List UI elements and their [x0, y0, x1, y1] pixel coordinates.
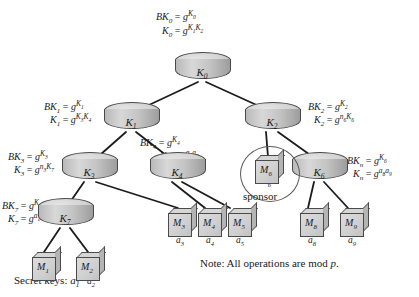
key-node-k6[interactable]: K6: [292, 152, 348, 182]
formula-k2: K2 = gn6K6: [314, 111, 354, 131]
member-node-m3[interactable]: M3: [168, 208, 198, 236]
member-node-m3-label: M3: [168, 217, 190, 233]
key-node-k4-label: K4: [150, 166, 204, 183]
formula-k3: K3 = gn3K7: [14, 161, 54, 181]
member-node-m1-label: M1: [32, 261, 54, 277]
key-node-k2-label: K2: [245, 116, 299, 133]
figure-note: Note: All operations are mod p.: [200, 257, 339, 269]
member-node-m8[interactable]: M8: [300, 208, 330, 236]
key-node-k0[interactable]: K0: [175, 52, 231, 82]
key-tree-diagram: BK0 = gK0 K0 = gK1K2 BK1 = gK1 K1 = gK3K…: [0, 0, 419, 297]
figure-note-text: Note: All operations are mod: [200, 257, 330, 269]
key-node-k1-label: K1: [104, 116, 158, 133]
key-node-k4[interactable]: K4: [150, 152, 206, 182]
figure-note-end: .: [336, 257, 339, 269]
member-node-m5[interactable]: M5: [228, 208, 258, 236]
key-node-k7-label: K7: [38, 212, 92, 229]
member-node-m5-label: M5: [228, 217, 250, 233]
key-node-k0-label: K0: [175, 66, 229, 83]
member-node-m4-label: M4: [198, 217, 220, 233]
formula-kn: Kn = ga8a9: [353, 165, 392, 185]
key-node-k3[interactable]: K3: [62, 152, 118, 182]
formula-k1: K1 = gK3K4: [50, 111, 91, 131]
member-node-m9[interactable]: M9: [340, 208, 370, 236]
tree-edges: [0, 0, 419, 297]
member-node-m9-label: M9: [340, 217, 362, 233]
formula-k0: K0 = gK1K2: [162, 22, 203, 42]
member-node-m8-label: M8: [300, 217, 322, 233]
member-node-m6-label: M6: [255, 164, 277, 180]
key-node-k1[interactable]: K1: [104, 102, 160, 132]
key-node-k3-label: K3: [62, 166, 116, 183]
key-node-k2[interactable]: K2: [245, 102, 301, 132]
key-node-k6-label: K6: [292, 166, 346, 183]
member-node-m2-label: M2: [76, 261, 98, 277]
sponsor-caption: sponsor: [243, 190, 277, 202]
member-node-m4[interactable]: M4: [198, 208, 228, 236]
key-node-k7[interactable]: K7: [38, 198, 94, 228]
member-node-m2[interactable]: M2: [76, 252, 106, 280]
